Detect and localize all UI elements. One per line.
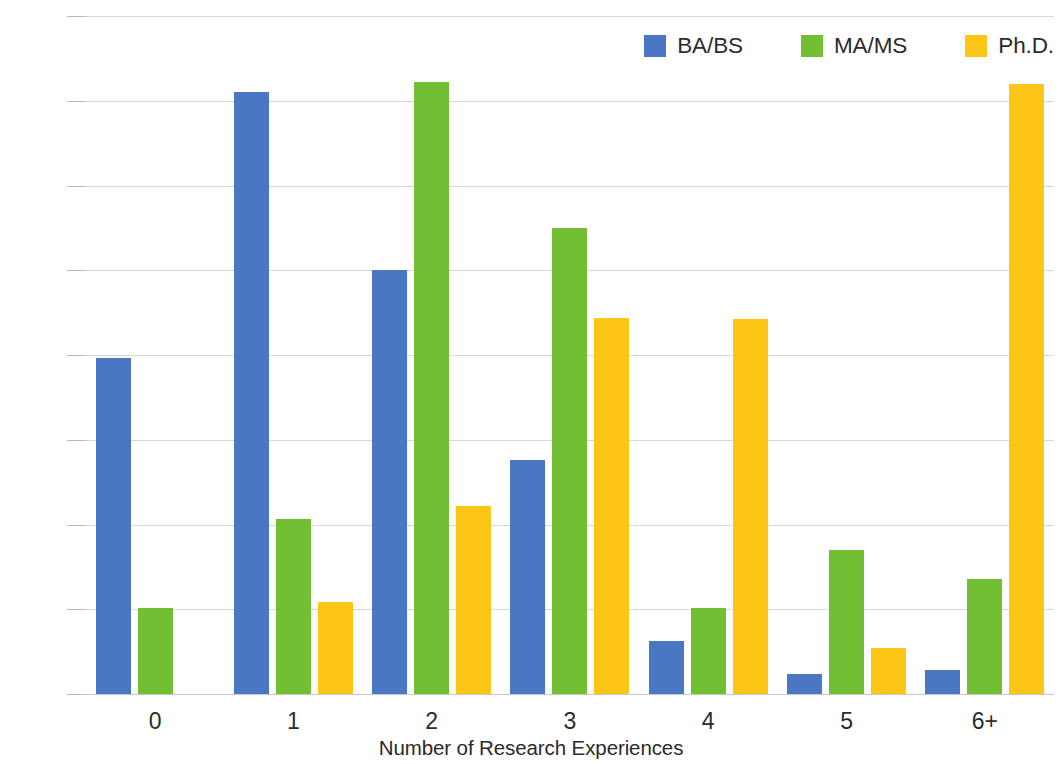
bar-group: 0 <box>86 16 224 694</box>
x-tick-label: 6+ <box>916 708 1054 735</box>
x-tick-label: 4 <box>639 708 777 735</box>
y-tick-mark <box>67 609 86 610</box>
x-tick-label: 3 <box>501 708 639 735</box>
bar[interactable] <box>787 674 822 694</box>
bar-chart: BA/BSMA/MSPh.D. Percentage of Graduates … <box>0 0 1062 764</box>
bar-group: 3 <box>501 16 639 694</box>
y-tick-mark <box>67 440 86 441</box>
bar[interactable] <box>234 92 269 694</box>
plot-area: 0%5%10%15%20%25%30%35%40% 0123456+ <box>86 16 1054 694</box>
bar[interactable] <box>510 460 545 694</box>
bar[interactable] <box>967 579 1002 694</box>
bar[interactable] <box>138 608 173 694</box>
bar[interactable] <box>594 318 629 694</box>
bar[interactable] <box>456 506 491 694</box>
gridline <box>86 694 1054 695</box>
bar[interactable] <box>276 519 311 694</box>
bar[interactable] <box>649 641 684 694</box>
bar[interactable] <box>871 648 906 694</box>
bar[interactable] <box>925 670 960 694</box>
y-tick-mark <box>67 694 86 695</box>
x-tick-label: 1 <box>224 708 362 735</box>
bar[interactable] <box>96 358 131 694</box>
bar[interactable] <box>552 228 587 694</box>
x-tick-label: 0 <box>86 708 224 735</box>
x-tick-label: 2 <box>363 708 501 735</box>
x-axis-title: Number of Research Experiences <box>0 736 1062 760</box>
bar-group: 1 <box>224 16 362 694</box>
y-tick-mark <box>67 16 86 17</box>
bar[interactable] <box>318 602 353 694</box>
y-tick-mark <box>67 525 86 526</box>
bar[interactable] <box>1009 84 1044 694</box>
x-tick-label: 5 <box>777 708 915 735</box>
y-tick-mark <box>67 270 86 271</box>
bar[interactable] <box>829 550 864 694</box>
bar-group: 4 <box>639 16 777 694</box>
bar-groups: 0123456+ <box>86 16 1054 694</box>
y-tick-mark <box>67 101 86 102</box>
bar[interactable] <box>372 270 407 694</box>
y-tick-mark <box>67 355 86 356</box>
bar-group: 6+ <box>916 16 1054 694</box>
bar[interactable] <box>733 319 768 694</box>
bar-group: 2 <box>363 16 501 694</box>
bar[interactable] <box>414 82 449 694</box>
bar[interactable] <box>691 608 726 694</box>
bar-group: 5 <box>777 16 915 694</box>
y-tick-mark <box>67 186 86 187</box>
